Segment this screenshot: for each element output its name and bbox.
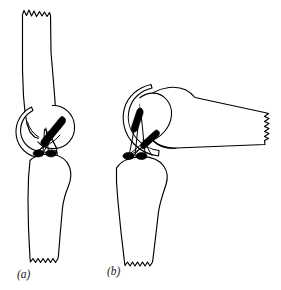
tibia-bone-panel-b bbox=[117, 157, 168, 266]
figure-root: (a) bbox=[0, 0, 281, 290]
panel-b: (b) bbox=[107, 85, 269, 279]
suture-anchor-tibial-left-panel-a bbox=[33, 150, 44, 157]
suture-anchor-tibial-right-panel-b bbox=[136, 153, 147, 160]
panel-b-caption: (b) bbox=[107, 265, 121, 278]
suture-anchor-tibial-left-panel-b bbox=[123, 153, 134, 160]
panel-a-caption: (a) bbox=[17, 268, 31, 281]
panel-a: (a) bbox=[16, 10, 75, 281]
knee-reconstruction-figure: (a) bbox=[0, 0, 281, 290]
suture-anchor-tibial-right-panel-a bbox=[46, 150, 57, 157]
tibia-bone-panel-a bbox=[28, 154, 71, 262]
